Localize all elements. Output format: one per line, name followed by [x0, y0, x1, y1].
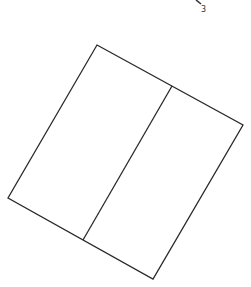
corner-label: 3: [201, 5, 206, 14]
fragment-mark: [196, 0, 201, 4]
diagram-canvas: 3: [0, 0, 251, 287]
divider-line: [83, 86, 172, 240]
outer-rectangle: [8, 45, 243, 279]
